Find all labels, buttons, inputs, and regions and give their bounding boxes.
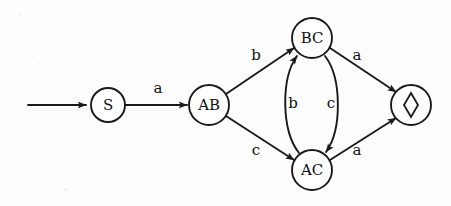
transition-s-to-ab: a — [125, 79, 187, 105]
edge-label-ab-bc: b — [251, 46, 261, 64]
transition-ab-to-bc: b — [226, 46, 294, 94]
transition-ac-to-sink: a — [330, 118, 396, 160]
state-node-bc[interactable]: BC — [292, 18, 332, 58]
edge-label-ab-ac: c — [252, 141, 260, 159]
transition-ac-to-bc: b — [285, 56, 299, 153]
state-node-ac[interactable]: AC — [292, 150, 332, 190]
automaton-canvas: AB ===== --> a BC ===== --> b AC ===== -… — [0, 0, 451, 206]
edge-label-s-ab: a — [154, 79, 163, 97]
state-node-ab[interactable]: AB — [189, 85, 229, 125]
edge-label-ac-sink: a — [353, 141, 362, 159]
state-node-s[interactable]: S — [91, 88, 125, 122]
state-label-s: S — [103, 96, 113, 114]
state-label-ac: AC — [300, 161, 323, 179]
state-circle-sink[interactable] — [391, 85, 431, 125]
state-node-sink[interactable] — [391, 85, 431, 125]
state-label-ab: AB — [197, 96, 220, 114]
state-diagram: AB ===== --> a BC ===== --> b AC ===== -… — [0, 0, 451, 206]
transition-bc-to-sink: a — [330, 46, 396, 92]
edge-bc-sink — [330, 48, 396, 92]
transition-ab-to-ac: c — [226, 116, 294, 160]
edge-label-ac-bc: b — [288, 94, 298, 112]
edge-ac-sink — [330, 118, 396, 160]
state-label-bc: BC — [301, 29, 323, 47]
edge-label-bc-ac: c — [327, 94, 335, 112]
transition-bc-to-ac: c — [325, 56, 338, 152]
edge-label-bc-sink: a — [353, 46, 362, 64]
